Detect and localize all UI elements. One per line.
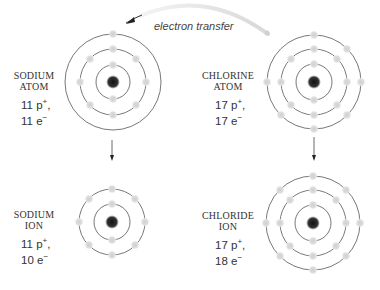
chloride-ion-label: CHLORIDE ION 17 p+, 18 e− [188, 210, 268, 269]
proton-count: 11 p+, [0, 236, 74, 252]
species-type: ION [188, 221, 268, 232]
nucleus-icon [106, 75, 120, 89]
sodium-down-arrow [110, 140, 114, 161]
sodium-ion-label: SODIUM ION 11 p+, 10 e− [0, 209, 74, 268]
electron-count: 10 e− [0, 252, 74, 268]
chloride-ion-model [261, 171, 365, 275]
electron-transfer-label: electron transfer [154, 20, 233, 32]
sodium-atom-label: SODIUM ATOM 11 p+, 11 e− [0, 70, 74, 129]
chlorine-atom-model [262, 30, 366, 134]
element-name: SODIUM [0, 209, 74, 220]
electron-count: 18 e− [188, 253, 268, 269]
element-name: CHLORINE [188, 70, 268, 81]
nucleus-icon [306, 216, 320, 230]
proton-count: 17 p+, [188, 237, 268, 253]
species-type: ION [0, 220, 74, 231]
proton-count: 11 p+, [0, 97, 74, 113]
sodium-ion-model [74, 184, 150, 260]
proton-count: 17 p+, [188, 97, 268, 113]
electron-count: 17 e− [188, 113, 268, 129]
species-type: ATOM [188, 81, 268, 92]
nucleus-icon [307, 75, 321, 89]
nucleus-icon [105, 215, 119, 229]
chlorine-atom-label: CHLORINE ATOM 17 p+, 17 e− [188, 70, 268, 129]
electron-count: 11 e− [0, 113, 74, 129]
species-type: ATOM [0, 81, 74, 92]
element-name: SODIUM [0, 70, 74, 81]
element-name: CHLORIDE [188, 210, 268, 221]
sodium-atom-model [65, 29, 161, 130]
chlorine-down-arrow [312, 137, 316, 161]
